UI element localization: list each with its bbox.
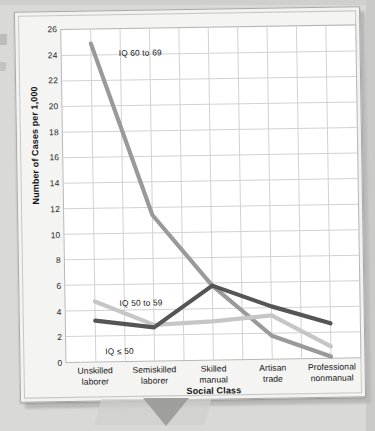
y-axis-tick-12: 12 — [34, 204, 60, 214]
series-annotation-iq-50-or-less: IQ ≤ 50 — [105, 346, 134, 356]
y-axis-tick-18: 18 — [33, 127, 59, 137]
y-axis-tick-22: 22 — [32, 75, 58, 85]
y-axis-tick-26: 26 — [31, 24, 57, 34]
page-edge-left-mark-2 — [0, 62, 6, 71]
y-axis-tick-20: 20 — [32, 101, 58, 111]
series-lines — [61, 25, 360, 362]
page-edge-top — [0, 0, 375, 5]
y-axis-tick-8: 8 — [35, 255, 61, 265]
series-annotation-iq-50-to-59: IQ 50 to 59 — [119, 297, 162, 308]
y-axis-tick-6: 6 — [35, 281, 61, 291]
y-axis-tick-0: 0 — [36, 358, 62, 368]
plot-area — [60, 24, 361, 363]
y-axis-tick-14: 14 — [34, 178, 60, 188]
plot-wrapper: Number of Cases per 1,000 02468101214161… — [15, 7, 365, 401]
y-axis-tick-2: 2 — [36, 332, 62, 342]
series-annotation-iq-60-to-69: IQ 60 to 69 — [119, 47, 162, 58]
page-curl-triangle — [143, 398, 189, 426]
page-edge-left-mark-1 — [0, 34, 7, 45]
figure-card: Number of Cases per 1,000 02468101214161… — [14, 6, 366, 402]
scanned-figure-page: Number of Cases per 1,000 02468101214161… — [0, 0, 375, 431]
y-axis-tick-4: 4 — [36, 307, 62, 317]
y-axis-tick-24: 24 — [32, 50, 58, 60]
y-axis-tick-labels: 02468101214161820222426 — [27, 29, 62, 363]
y-axis-tick-10: 10 — [34, 230, 60, 240]
y-axis-tick-16: 16 — [33, 153, 59, 163]
